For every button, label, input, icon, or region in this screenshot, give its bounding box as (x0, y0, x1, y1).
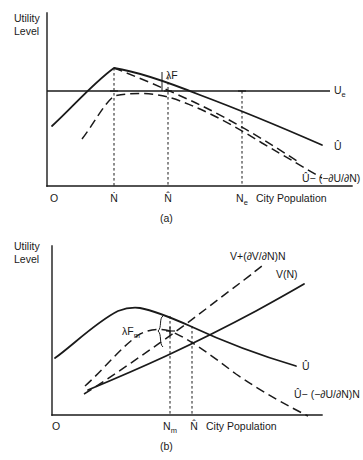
y-axis-label-line2-b: Level (14, 253, 39, 265)
xtick-n-m: Nm (163, 420, 177, 435)
lambda-fm-brace (158, 316, 163, 347)
x-axis-label-a: City Population (256, 192, 327, 204)
u-hat-label-b: Û (302, 360, 310, 372)
v-plus-dvdn-label: V+(∂V/∂N)N (230, 250, 286, 262)
y-axis-label-line2: Level (14, 25, 39, 37)
u-hat-minus-curve-a (82, 93, 322, 178)
figure-panel-a: Utility Level λF Ue Û Û− (−∂U/∂N) Ṅ N̂ N… (0, 0, 363, 230)
y-axis-label-line1: Utility (14, 12, 40, 24)
xtick-n-star: Ṅ (110, 192, 118, 204)
u-hat-curve-b (55, 308, 296, 366)
caption-b: (b) (160, 440, 173, 452)
v-of-n-curve-b (88, 284, 304, 390)
lambda-fm-annotation: λFm (122, 325, 140, 340)
u-hat-minus-label-b: Û− (−∂U/∂N)N (294, 388, 360, 400)
x-axis-label-b: City Population (206, 420, 277, 432)
lambda-f-annotation: λF (166, 69, 178, 81)
u-hat-curve-a (52, 68, 322, 145)
v-plus-dvdn-curve-b (84, 266, 262, 394)
v-of-n-label: V(N) (276, 268, 298, 280)
caption-a: (a) (160, 212, 173, 224)
origin-label-a: O (50, 192, 58, 204)
origin-label-b: O (52, 420, 60, 432)
chart-a-svg: Utility Level λF Ue Û Û− (−∂U/∂N) Ṅ N̂ N… (0, 0, 363, 230)
u-hat-minus-label: Û− (−∂U/∂N) (302, 172, 360, 184)
chart-b-svg: Utility Level λFm V+(∂V/∂N)N V(N) Û Û− (… (0, 230, 363, 460)
figure-panel-b: Utility Level λFm V+(∂V/∂N)N V(N) Û Û− (… (0, 230, 363, 460)
u-hat-label: Û (334, 140, 342, 152)
xtick-n-hat: N̂ (164, 191, 172, 204)
xtick-n-hat-b: N̂ (190, 419, 198, 432)
xtick-n-e: Ne (236, 192, 248, 207)
ue-label: Ue (334, 84, 346, 99)
y-axis-label-line1-b: Utility (14, 240, 40, 252)
